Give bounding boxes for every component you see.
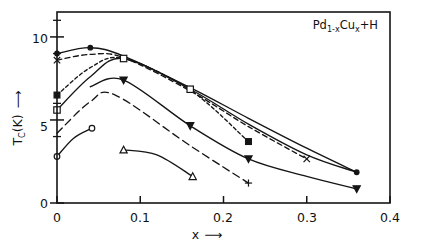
y-axis-title: TC(K)⟶ (10, 90, 27, 146)
data-curve-dash-long-plus (57, 92, 248, 183)
data-marker-filled-triangle-down (120, 77, 127, 84)
data-curve-solid-open-square (57, 58, 357, 172)
data-curve-dashed-cross-x (57, 54, 307, 159)
svg-text:TC(K)⟶: TC(K)⟶ (10, 90, 27, 146)
x-tick-label-0.4: 0.4 (380, 210, 400, 225)
data-marker-open-square (120, 55, 126, 61)
data-marker-filled-square (246, 139, 252, 145)
y-tick-label-10: 10 (32, 31, 48, 46)
data-marker-filled-triangle-down (353, 186, 360, 193)
chart-canvas: 10 5 0 0 0.1 0.2 0.3 0.4 TC(K)⟶ x⟶ Pd1-x (0, 0, 427, 243)
data-curve-solid-open-circle (57, 128, 92, 156)
data-curve-solid-open-triangle-up (124, 150, 193, 177)
data-curve-dash-fine-filled-square (57, 57, 248, 141)
axis-ticks-group (50, 20, 390, 203)
data-marker-open-circle (89, 125, 95, 131)
annotation-sub1: 1-x (327, 25, 340, 34)
x-tick-label-0.3: 0.3 (297, 210, 317, 225)
data-marker-filled-triangle-down (245, 156, 252, 163)
y-axis-title-arrow: ⟶ (10, 90, 25, 108)
x-axis-title: x⟶ (192, 227, 222, 242)
x-tick-label-0.1: 0.1 (130, 210, 150, 225)
data-marker-open-square (187, 86, 193, 92)
x-tick-label-0.2: 0.2 (213, 210, 233, 225)
plot-annotation-formula: Pd1-xCux+H (313, 18, 378, 34)
x-axis-title-arrow: ⟶ (204, 227, 222, 242)
data-marker-filled-circle (354, 170, 359, 175)
annotation-prefix: Pd (313, 18, 327, 32)
x-axis-tick-labels: 0 0.1 0.2 0.3 0.4 (53, 210, 400, 225)
annotation-suffix: +H (360, 18, 378, 32)
data-marker-filled-circle (88, 45, 93, 50)
data-marker-filled-triangle-down (187, 123, 194, 130)
y-axis-tick-labels: 10 5 0 (32, 31, 48, 211)
svg-text:Pd1-xCux+H: Pd1-xCux+H (313, 18, 378, 34)
svg-text:x⟶: x⟶ (192, 227, 222, 242)
y-tick-label-0: 0 (40, 196, 48, 211)
figure-container: 10 5 0 0 0.1 0.2 0.3 0.4 TC(K)⟶ x⟶ Pd1-x (0, 0, 427, 243)
data-curve-solid-filled-triangle-down (90, 78, 356, 189)
annotation-mid: Cu (340, 18, 355, 32)
data-curves-group (57, 48, 357, 189)
y-tick-label-5: 5 (40, 119, 48, 134)
y-axis-title-unit: (K) (10, 114, 25, 132)
plot-frame (57, 12, 390, 203)
data-marker-open-triangle-up (189, 173, 196, 180)
x-tick-label-0: 0 (53, 210, 61, 225)
x-axis-title-main: x (192, 227, 199, 242)
